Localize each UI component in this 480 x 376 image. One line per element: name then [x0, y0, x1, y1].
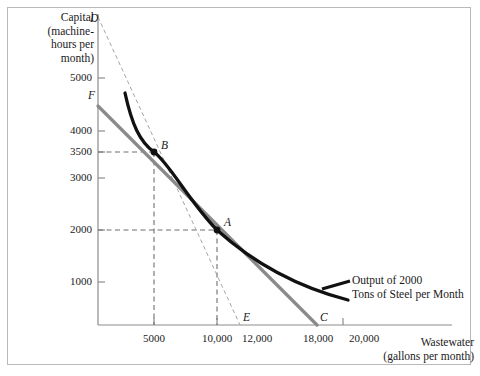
data-point-b	[151, 149, 158, 156]
y-axis-title-line2: (machine-	[10, 25, 94, 39]
y-axis-title-line1: Capital	[10, 11, 94, 25]
x-tick-label-20000: 20,000	[335, 332, 393, 344]
y-tick-label-3000: 3000	[50, 171, 92, 183]
curve-annotation-leader	[322, 281, 350, 289]
point-label-e: E	[243, 311, 250, 323]
y-tick-label-1000: 1000	[50, 275, 92, 287]
y-axis-title-line4: month)	[10, 52, 94, 66]
point-label-c: C	[320, 311, 328, 323]
y-axis-title: Capital (machine- hours per month)	[10, 11, 94, 65]
guide-lines	[98, 152, 217, 325]
point-label-d: D	[90, 12, 98, 24]
point-label-a: A	[224, 216, 231, 228]
x-axis-title-line2: (gallons per month)	[356, 350, 474, 364]
y-axis-title-line3: hours per	[10, 38, 94, 52]
y-tick-label-5000: 5000	[50, 71, 92, 83]
isoquant-curve	[125, 93, 348, 300]
curve-annotation-line1: Output of 2000	[352, 274, 464, 288]
y-tick-label-4000: 4000	[50, 124, 92, 136]
point-label-b: B	[161, 139, 168, 151]
curve-annotation: Output of 2000 Tons of Steel per Month	[352, 274, 464, 301]
point-label-f: F	[88, 89, 95, 101]
curve-annotation-line2: Tons of Steel per Month	[352, 288, 464, 302]
x-tick-label-5000: 5000	[128, 332, 180, 344]
y-tick-label-2000: 2000	[50, 223, 92, 235]
x-tick-label-12000: 12,000	[228, 332, 286, 344]
isocost-line-fc	[98, 106, 317, 325]
y-tick-label-3500: 3500	[50, 145, 92, 157]
data-point-a	[214, 227, 221, 234]
